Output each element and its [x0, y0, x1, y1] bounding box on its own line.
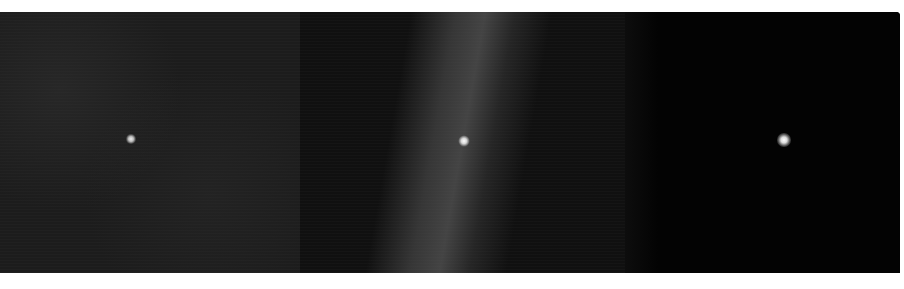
point-source-1	[126, 134, 136, 144]
point-source-3	[777, 133, 791, 147]
panel-2	[300, 12, 625, 273]
point-source-2	[459, 136, 470, 147]
image-strip	[0, 12, 900, 273]
panel-3	[625, 12, 900, 273]
panel-1	[0, 12, 300, 273]
